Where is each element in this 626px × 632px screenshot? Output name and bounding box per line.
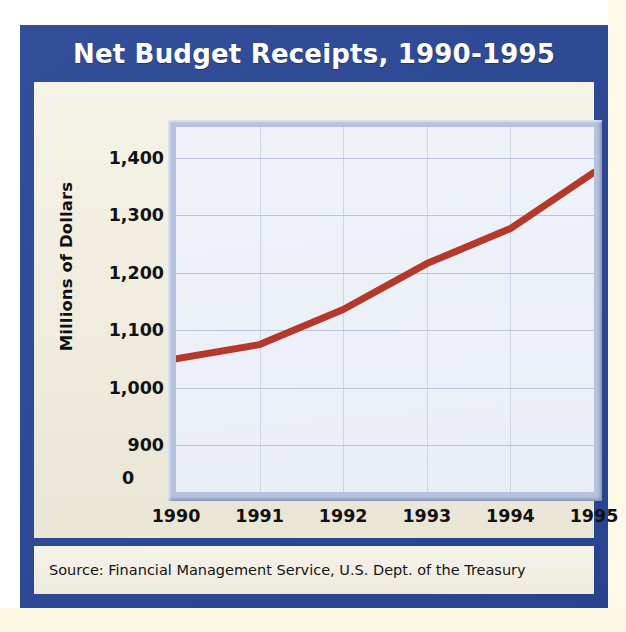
y-axis-tick-label: 1,000 bbox=[72, 378, 164, 398]
y-axis-tick-label: 1,400 bbox=[72, 148, 164, 168]
page-background: Net Budget Receipts, 1990-1995 Millions … bbox=[0, 0, 626, 632]
plot-frame bbox=[168, 120, 602, 501]
chart-panel: Millions of Dollars 1,4001,3001,2001,100… bbox=[34, 82, 594, 538]
x-axis-tick-label: 1990 bbox=[152, 506, 201, 526]
y-axis-tick-label: 1,100 bbox=[72, 320, 164, 340]
title-band: Net Budget Receipts, 1990-1995 bbox=[20, 25, 608, 82]
y-axis-tick-label: 1,200 bbox=[72, 263, 164, 283]
y-axis-zero-tick: 0 bbox=[122, 468, 134, 488]
x-axis-tick-label: 1995 bbox=[570, 506, 619, 526]
data-series-line bbox=[176, 172, 594, 359]
x-axis-tick-label: 1992 bbox=[319, 506, 368, 526]
chart-frame: Net Budget Receipts, 1990-1995 Millions … bbox=[20, 25, 608, 608]
source-note: Source: Financial Management Service, U.… bbox=[34, 562, 526, 578]
x-axis-tick-label: 1994 bbox=[486, 506, 535, 526]
page-title: Net Budget Receipts, 1990-1995 bbox=[73, 39, 555, 69]
page-bottom-margin bbox=[0, 608, 626, 632]
source-panel: Source: Financial Management Service, U.… bbox=[34, 546, 594, 594]
data-line-svg bbox=[176, 127, 594, 492]
y-axis-tick-label: 900 bbox=[72, 435, 164, 455]
page-right-margin bbox=[608, 0, 626, 632]
x-axis-tick-label: 1991 bbox=[235, 506, 284, 526]
x-axis-ticks: 199019911992199319941995 bbox=[168, 506, 602, 534]
y-axis-tick-label: 1,300 bbox=[72, 205, 164, 225]
x-axis-tick-label: 1993 bbox=[402, 506, 451, 526]
plot-area bbox=[176, 127, 594, 492]
y-axis-ticks: 1,4001,3001,2001,1001,000900 bbox=[54, 82, 164, 538]
